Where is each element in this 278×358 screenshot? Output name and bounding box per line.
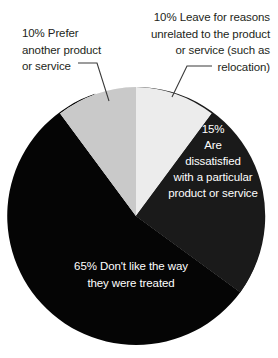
slice-label-dissatisfied-line4: with a particular bbox=[152, 169, 274, 185]
callout-unrelated-line1: 10% Leave for reasons bbox=[137, 9, 270, 26]
slice-label-treated-line1: 65% Don't like the way bbox=[38, 258, 224, 275]
callout-unrelated: 10% Leave for reasons unrelated to the p… bbox=[137, 9, 270, 75]
slice-label-dissatisfied-line5: product or service bbox=[152, 185, 274, 201]
slice-label-treated-line2: they were treated bbox=[38, 275, 224, 292]
callout-unrelated-line3: or service (such as bbox=[137, 42, 270, 59]
callout-unrelated-line2: unrelated to the product bbox=[137, 26, 270, 43]
callout-unrelated-line4: relocation) bbox=[137, 59, 270, 76]
slice-label-dissatisfied-line1: 15% bbox=[152, 121, 274, 137]
callout-prefer-line3: or service bbox=[22, 58, 142, 75]
slice-label-dissatisfied-line3: dissatisfied bbox=[152, 153, 274, 169]
slice-label-treated: 65% Don't like the way they were treated bbox=[38, 258, 224, 292]
slice-label-dissatisfied: 15% Are dissatisfied with a particular p… bbox=[152, 121, 274, 201]
callout-prefer-line2: another product bbox=[22, 42, 142, 59]
slice-label-dissatisfied-line2: Are bbox=[152, 137, 274, 153]
pie-chart-figure: 10% Prefer another product or service 10… bbox=[0, 0, 278, 358]
callout-prefer: 10% Prefer another product or service bbox=[22, 25, 142, 75]
callout-prefer-line1: 10% Prefer bbox=[22, 25, 142, 42]
